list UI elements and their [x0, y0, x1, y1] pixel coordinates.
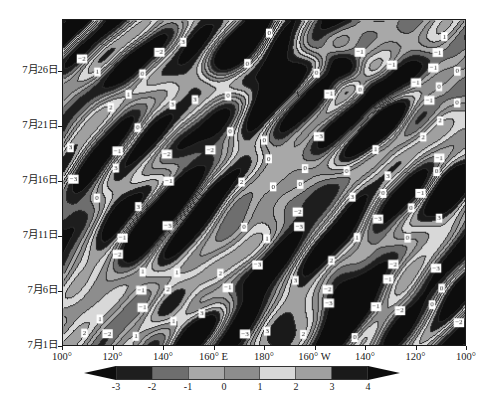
y-tick-label: 7月21日 [22, 120, 58, 131]
x-tick-mark [214, 346, 215, 350]
colorbar-segment [332, 367, 367, 379]
x-tick-mark [315, 346, 316, 350]
x-tick-mark [163, 346, 164, 350]
colorbar-extend-high-icon [368, 366, 400, 380]
y-tick-mark [58, 126, 62, 127]
y-tick-label: 7月11日 [23, 230, 58, 241]
colorbar-extend-low-icon [84, 366, 116, 380]
x-tick-label: 100° [456, 351, 476, 362]
colorbar-tick-label: 4 [366, 382, 371, 392]
x-tick-mark [416, 346, 417, 350]
figure-container: 7月1日7月6日7月11日7月16日7月21日7月26日 100°120°140… [0, 0, 483, 412]
plot-area [62, 19, 466, 346]
x-tick-mark [365, 346, 366, 350]
y-tick-label: 7月16日 [22, 175, 58, 186]
x-tick-label: 160° E [199, 351, 228, 362]
y-tick-label: 7月6日 [28, 285, 59, 296]
x-tick-label: 120° [406, 351, 426, 362]
colorbar-segment [225, 367, 261, 379]
colorbar-segment [260, 367, 296, 379]
x-tick-mark [62, 346, 63, 350]
colorbar-segment [296, 367, 332, 379]
y-tick-label: 7月26日 [22, 65, 58, 76]
colorbar: -3-2-101234 [84, 366, 400, 398]
x-axis: 100°120°140°160° E180°160° W140°120°100° [0, 349, 483, 365]
x-tick-mark [264, 346, 265, 350]
colorbar-tick-label: 0 [222, 382, 227, 392]
x-tick-mark [113, 346, 114, 350]
colorbar-segment [153, 367, 189, 379]
y-tick-mark [58, 181, 62, 182]
x-tick-label: 160° W [298, 351, 330, 362]
colorbar-segment [117, 367, 153, 379]
y-tick-mark [58, 236, 62, 237]
colorbar-tick-label: -1 [184, 382, 192, 392]
contour-field [63, 20, 465, 345]
colorbar-tick-label: -2 [148, 382, 156, 392]
colorbar-tick-label: 3 [330, 382, 335, 392]
colorbar-tick-label: 1 [258, 382, 263, 392]
y-tick-mark [58, 71, 62, 72]
x-tick-label: 180° [254, 351, 274, 362]
colorbar-segments [116, 366, 368, 380]
x-tick-label: 140° [355, 351, 375, 362]
colorbar-segment [189, 367, 225, 379]
x-tick-label: 120° [103, 351, 123, 362]
x-tick-label: 140° [153, 351, 173, 362]
x-tick-mark [466, 346, 467, 350]
colorbar-tick-label: 2 [294, 382, 299, 392]
x-tick-label: 100° [52, 351, 72, 362]
colorbar-tick-label: -3 [112, 382, 120, 392]
y-tick-mark [58, 291, 62, 292]
